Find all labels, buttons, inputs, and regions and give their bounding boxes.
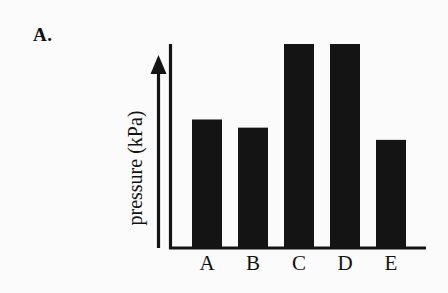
x-tick-label-e: E xyxy=(371,253,411,274)
bar-chart xyxy=(0,0,448,293)
upward-arrow-icon xyxy=(151,55,167,248)
bar-e xyxy=(376,140,406,248)
bar-a xyxy=(192,119,222,248)
bar-c xyxy=(284,44,314,248)
bar-b xyxy=(238,128,268,248)
figure-panel: A. pressure (kPa) ABCDE xyxy=(0,0,448,293)
x-tick-label-b: B xyxy=(233,253,273,274)
chart-svg xyxy=(0,0,448,293)
bar-d xyxy=(330,44,360,248)
x-tick-label-c: C xyxy=(279,253,319,274)
bars-group xyxy=(192,44,406,248)
x-tick-label-d: D xyxy=(325,253,365,274)
x-tick-label-a: A xyxy=(187,253,227,274)
